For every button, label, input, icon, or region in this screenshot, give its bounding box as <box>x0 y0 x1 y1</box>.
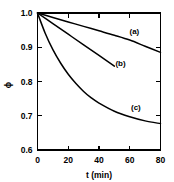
curve-label-c: (c) <box>131 103 141 112</box>
curve-label-b: (b) <box>115 59 126 68</box>
line-chart: 020406080 1.00.90.80.70.6 (a)(b)(c) t (m… <box>0 0 174 182</box>
x-axis-title: t (min) <box>86 170 112 180</box>
x-tick-label: 80 <box>156 155 166 165</box>
x-tick-label: 60 <box>125 155 135 165</box>
x-tick-label: 40 <box>94 155 104 165</box>
x-tick-label: 20 <box>64 155 74 165</box>
y-tick-label: 0.7 <box>21 111 33 121</box>
y-axis-title: ϕ <box>3 81 13 88</box>
curve-label-a: (a) <box>129 27 139 36</box>
x-tick-label: 0 <box>35 155 40 165</box>
y-tick-label: 1.0 <box>21 8 33 18</box>
y-tick-label: 0.8 <box>21 77 33 87</box>
chart-figure: 020406080 1.00.90.80.70.6 (a)(b)(c) t (m… <box>0 0 174 182</box>
y-tick-label: 0.6 <box>21 145 33 155</box>
y-tick-label: 0.9 <box>21 42 33 52</box>
